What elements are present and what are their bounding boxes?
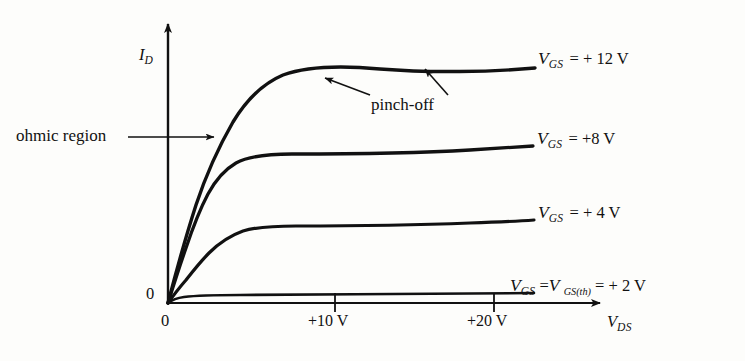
- x-tick-label-20v: +20 V: [467, 313, 507, 329]
- plot-canvas: [0, 0, 745, 361]
- y-axis-label-sub: D: [145, 54, 154, 66]
- series-label-sub: GS: [548, 138, 563, 150]
- series-label-eq: =: [570, 203, 579, 222]
- series-label-value: + 4 V: [583, 203, 620, 222]
- x-axis-label: VDS: [607, 314, 632, 334]
- series-label-sub: GS: [521, 285, 536, 297]
- series-label-vgs-4v: VGS = + 4 V: [538, 204, 620, 225]
- series-label-sub2: GS(th): [564, 286, 591, 297]
- origin-label-y: 0: [146, 286, 154, 303]
- series-label-value: + 2 V: [609, 276, 646, 295]
- x-tick-label-10v: +10 V: [308, 313, 348, 329]
- pinch-off-arrow-left: [325, 78, 370, 95]
- series-label-sub: GS: [549, 58, 564, 70]
- series-label-eq: =: [570, 49, 579, 68]
- mosfet-characteristic-figure: ID VDS 0 0 +10 V +20 V ohmic region pinc…: [0, 0, 745, 361]
- series-label-var2: V: [549, 275, 560, 295]
- series-label-vgs-12v: VGS = + 12 V: [538, 50, 629, 71]
- x-axis-label-var: V: [607, 312, 617, 331]
- x-axis-label-sub: DS: [617, 321, 632, 333]
- series-label-eq2: =: [595, 276, 604, 295]
- series-label-vgs-th: VGS =V GS(th) = + 2 V: [510, 277, 646, 298]
- pinch-off-label: pinch-off: [371, 96, 434, 113]
- curve-vgs-th-2v: [168, 293, 534, 303]
- series-label-value: + 12 V: [583, 49, 629, 68]
- series-label-vgs-8v: VGS = +8 V: [537, 130, 615, 151]
- series-label-sub: GS: [549, 212, 564, 224]
- series-label-var: V: [510, 275, 521, 295]
- series-label-value: +8 V: [582, 129, 615, 148]
- series-label-eq: =: [540, 276, 549, 295]
- y-axis-label: ID: [139, 47, 153, 67]
- ohmic-region-label: ohmic region: [16, 127, 106, 144]
- series-label-var: V: [537, 128, 548, 148]
- curve-vgs-12v: [168, 67, 535, 303]
- origin-label-x: 0: [161, 313, 169, 330]
- curve-vgs-4v: [168, 220, 534, 303]
- series-label-var: V: [538, 48, 549, 68]
- series-label-var: V: [538, 202, 549, 222]
- series-label-eq: =: [569, 129, 578, 148]
